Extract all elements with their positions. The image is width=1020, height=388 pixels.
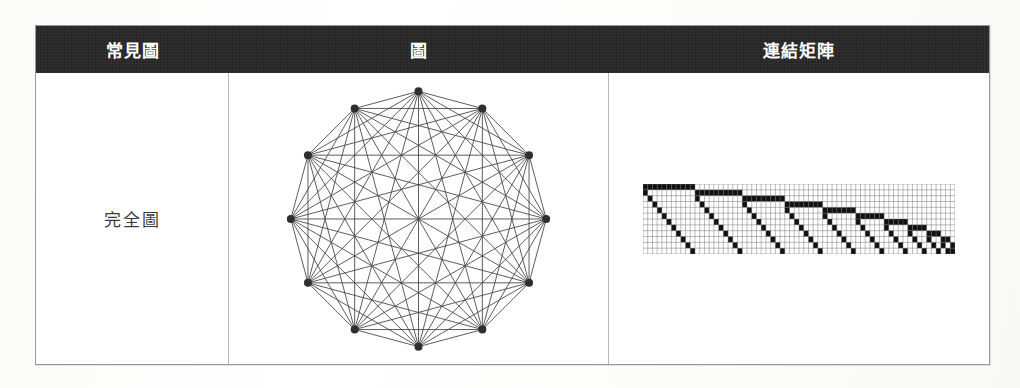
graph-vertex [478, 326, 486, 334]
matrix-cell-on [643, 184, 648, 190]
matrix-cell-on [936, 230, 941, 236]
graph-edge [529, 219, 546, 283]
matrix-cell-on [709, 213, 714, 219]
matrix-cell-on [714, 219, 719, 225]
column-header-adjacency-matrix: 連結矩陣 [609, 26, 989, 73]
matrix-cell-on [903, 248, 908, 254]
graph-vertex [304, 151, 312, 159]
matrix-cell-on [676, 184, 681, 190]
matrix-cell-on [884, 219, 889, 225]
matrix-cell-on [860, 224, 865, 230]
matrix-cell-on [667, 184, 672, 190]
matrix-cell-on [889, 230, 894, 236]
matrix-cell-on [898, 219, 903, 225]
matrix-cell-on [842, 207, 847, 213]
matrix-cell-on [846, 242, 851, 248]
adjacency-matrix-grid [643, 184, 955, 254]
matrix-cell-on [704, 189, 709, 195]
matrix-cell-on [894, 219, 899, 225]
matrix-cell-on [714, 189, 719, 195]
matrix-cell-on [860, 213, 865, 219]
matrix-cell-on [894, 236, 899, 242]
matrix-cell-on [941, 236, 946, 242]
matrix-cell-on [818, 248, 823, 254]
matrix-cell-on [752, 195, 757, 201]
graph-edge [308, 155, 482, 329]
matrix-cell-on [931, 242, 936, 248]
matrix-cell-on [813, 242, 818, 248]
matrix-cell-on [657, 207, 662, 213]
matrix-cell-on [927, 236, 932, 242]
matrix-cell-on [946, 236, 951, 242]
matrix-cell-on [875, 242, 880, 248]
matrix-cell-on [936, 248, 941, 254]
graph-edge [355, 155, 529, 329]
matrix-cell-on [851, 248, 856, 254]
matrix-cell-on [775, 195, 780, 201]
matrix-cell-on [889, 219, 894, 225]
matrix-cell-on [865, 230, 870, 236]
column-header-common-graph: 常見圖 [36, 26, 229, 73]
cell-adjacency-matrix [609, 73, 989, 364]
matrix-cell-on [695, 195, 700, 201]
column-header-graph: 圖 [229, 26, 609, 73]
matrix-cell-on [927, 230, 932, 236]
graph-edge [355, 108, 529, 155]
matrix-cell-on [771, 236, 776, 242]
matrix-cell-on [865, 213, 870, 219]
matrix-cell-on [837, 230, 842, 236]
matrix-cell-on [832, 207, 837, 213]
matrix-cell-on [648, 184, 653, 190]
graph-edge [419, 330, 483, 347]
matrix-cell-on [903, 219, 908, 225]
matrix-cell-on [818, 201, 823, 207]
cell-graph-drawing [229, 73, 609, 364]
matrix-cell-on [837, 207, 842, 213]
graph-reference-table: 常見圖 圖 連結矩陣 完全圖 [35, 25, 990, 365]
graph-edge [355, 91, 419, 108]
graph-edge [291, 219, 355, 330]
matrix-cell-on [681, 236, 686, 242]
matrix-cell-on [671, 184, 676, 190]
matrix-cell-on [879, 213, 884, 219]
matrix-cell-on [856, 213, 861, 219]
matrix-cell-on [761, 195, 766, 201]
matrix-cell-on [884, 224, 889, 230]
matrix-cell-on [846, 207, 851, 213]
graph-edge [308, 283, 419, 347]
table-header-row: 常見圖 圖 連結矩陣 [36, 26, 989, 73]
matrix-cell-on [662, 184, 667, 190]
matrix-cell-on [908, 224, 913, 230]
matrix-cell-on [648, 195, 653, 201]
matrix-cell-on [931, 230, 936, 236]
matrix-cell-on [941, 242, 946, 248]
graph-vertex [287, 215, 295, 223]
complete-graph-drawing [229, 73, 608, 364]
matrix-cell-on [851, 207, 856, 213]
matrix-cell-on [785, 201, 790, 207]
matrix-cell-on [695, 189, 700, 195]
graph-edge [308, 155, 419, 346]
matrix-cell-on [742, 201, 747, 207]
graph-edge [291, 108, 355, 219]
matrix-cell-on [823, 213, 828, 219]
graph-vertex [525, 151, 533, 159]
matrix-cell-on [917, 224, 922, 230]
graph-edge [355, 108, 529, 282]
matrix-cell-on [946, 248, 951, 254]
graph-edge [419, 91, 483, 108]
matrix-cell-on [804, 230, 809, 236]
matrix-cell-on [700, 189, 705, 195]
matrix-cell-on [898, 242, 903, 248]
graph-vertex [304, 279, 312, 287]
matrix-cell-on [723, 189, 728, 195]
matrix-cell-on [700, 201, 705, 207]
matrix-cell-on [652, 184, 657, 190]
matrix-cell-on [662, 213, 667, 219]
matrix-cell-on [728, 236, 733, 242]
matrix-cell-on [761, 224, 766, 230]
matrix-cell-on [667, 219, 672, 225]
matrix-cell-on [799, 224, 804, 230]
matrix-cell-on [747, 207, 752, 213]
graph-vertex [525, 279, 533, 287]
